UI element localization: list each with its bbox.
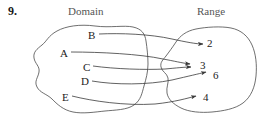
range-heading: Range	[197, 6, 225, 17]
range-element-2: 2	[207, 38, 213, 49]
domain-element-b: B	[88, 30, 95, 41]
diagram-canvas	[0, 0, 269, 123]
arrow-diagram-figure: 9. Domain Range A B C D E 2 3 6 4	[0, 0, 269, 123]
range-element-3: 3	[200, 60, 206, 71]
domain-element-e: E	[62, 92, 69, 103]
domain-element-c: C	[83, 62, 90, 73]
domain-element-a: A	[60, 48, 68, 59]
range-element-6: 6	[213, 70, 219, 81]
domain-element-d: D	[81, 76, 89, 87]
arrow-E-to-4	[72, 96, 196, 104]
domain-heading: Domain	[68, 6, 103, 17]
problem-number: 9.	[8, 5, 17, 17]
range-element-4: 4	[203, 92, 209, 103]
arrow-D-to-6	[92, 72, 206, 84]
arrow-C-to-3	[93, 66, 191, 69]
arrow-B-to-2	[99, 34, 203, 44]
